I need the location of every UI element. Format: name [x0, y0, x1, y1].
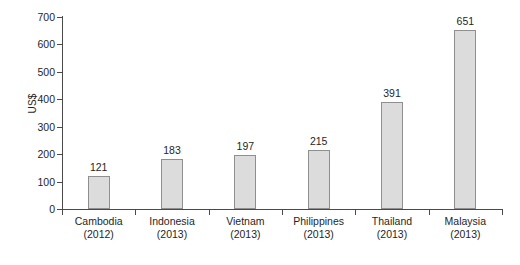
- y-tick-label: 200: [37, 148, 55, 160]
- x-category-name: Cambodia: [75, 215, 123, 227]
- y-tick-label: 0: [49, 203, 55, 215]
- bar[interactable]: [88, 176, 110, 209]
- bar-slot: 197: [209, 17, 282, 209]
- x-category-label: Indonesia(2013): [135, 215, 208, 241]
- x-category-name: Philippines: [293, 215, 344, 227]
- bar-value-label: 651: [457, 15, 475, 27]
- bar-value-label: 197: [237, 140, 255, 152]
- bar-slot: 183: [135, 17, 208, 209]
- x-category-label: Malaysia(2013): [429, 215, 502, 241]
- x-category-label: Thailand(2013): [355, 215, 428, 241]
- bar[interactable]: [454, 30, 476, 209]
- y-tick-label: 400: [37, 93, 55, 105]
- x-category-name: Indonesia: [149, 215, 195, 227]
- bar-slot: 121: [62, 17, 135, 209]
- x-category-name: Vietnam: [226, 215, 264, 227]
- x-category-year: (2013): [135, 228, 208, 241]
- x-tick-mark: [502, 210, 503, 215]
- x-category-name: Malaysia: [445, 215, 486, 227]
- bar[interactable]: [234, 155, 256, 209]
- bar-value-label: 391: [383, 87, 401, 99]
- y-tick-label: 600: [37, 38, 55, 50]
- x-category-year: (2013): [209, 228, 282, 241]
- y-tick-label: 300: [37, 121, 55, 133]
- x-category-name: Thailand: [372, 215, 412, 227]
- x-category-label: Cambodia(2012): [62, 215, 135, 241]
- plot-area: 0100200300400500600700 12118319721539165…: [62, 17, 502, 209]
- bar-chart: US$ 0100200300400500600700 1211831972153…: [0, 0, 520, 265]
- bar[interactable]: [381, 102, 403, 209]
- x-category-year: (2012): [62, 228, 135, 241]
- x-category-year: (2013): [429, 228, 502, 241]
- bar[interactable]: [161, 159, 183, 209]
- bar-value-label: 121: [90, 161, 108, 173]
- x-category-label: Vietnam(2013): [209, 215, 282, 241]
- y-tick-label: 100: [37, 176, 55, 188]
- x-category-year: (2013): [282, 228, 355, 241]
- bar-slot: 391: [355, 17, 428, 209]
- y-axis-title: US$: [27, 82, 38, 126]
- bar-value-label: 183: [163, 144, 181, 156]
- bar-value-label: 215: [310, 135, 328, 147]
- bar-slot: 215: [282, 17, 355, 209]
- y-tick-label: 700: [37, 11, 55, 23]
- x-category-year: (2013): [355, 228, 428, 241]
- bar[interactable]: [308, 150, 330, 209]
- y-tick-label: 500: [37, 66, 55, 78]
- bar-slot: 651: [429, 17, 502, 209]
- x-category-label: Philippines(2013): [282, 215, 355, 241]
